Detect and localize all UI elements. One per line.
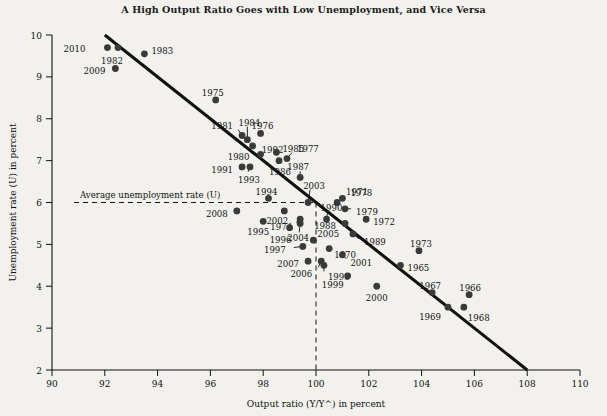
data-point [249, 143, 256, 150]
data-point-label: 1980 [228, 152, 250, 162]
chart-container: A High Output Ratio Goes with Low Unempl… [0, 0, 607, 416]
x-tick-label: 102 [360, 379, 377, 389]
x-tick-label: 104 [413, 379, 430, 389]
data-point [299, 243, 306, 250]
data-point-label: 1991 [211, 165, 233, 175]
data-point-label: 1977 [297, 144, 319, 154]
data-point [297, 220, 304, 227]
x-tick-label: 110 [571, 379, 588, 389]
scatter-plot: 90929496981001021041061081102345678910Ou… [0, 0, 607, 416]
y-tick-label: 5 [36, 240, 42, 250]
data-point-label: 1966 [459, 283, 481, 293]
y-tick-label: 10 [31, 31, 43, 41]
data-point-label: 2003 [303, 181, 325, 191]
data-point [276, 157, 283, 164]
data-point [244, 136, 251, 143]
x-tick-label: 96 [205, 379, 217, 389]
data-point [342, 220, 349, 227]
y-tick-label: 3 [36, 324, 42, 334]
data-point [339, 195, 346, 202]
y-tick-label: 9 [36, 72, 42, 82]
data-point-label: 2008 [206, 209, 228, 219]
data-point [286, 224, 293, 231]
data-point [239, 132, 246, 139]
data-point [247, 164, 254, 171]
data-point [239, 164, 246, 171]
x-tick-label: 92 [99, 379, 110, 389]
data-point-label: 1983 [151, 46, 173, 56]
data-point-label: 1978 [350, 188, 372, 198]
data-point [373, 283, 380, 290]
data-point [321, 262, 328, 269]
data-point-label: 2000 [366, 293, 388, 303]
data-point [257, 151, 264, 158]
x-tick-label: 98 [257, 379, 269, 389]
data-point [326, 245, 333, 252]
data-point-label: 1975 [202, 88, 224, 98]
data-point [460, 304, 467, 311]
data-point-label: 1972 [373, 217, 395, 227]
x-tick-label: 90 [46, 379, 58, 389]
x-tick-label: 100 [307, 379, 324, 389]
y-axis-title: Unemployment rate (U) in percent [8, 123, 18, 282]
data-point-label: 1995 [247, 227, 269, 237]
data-point-label: 1968 [468, 313, 490, 323]
data-point [104, 44, 111, 51]
data-point [115, 44, 122, 51]
y-tick-label: 2 [36, 366, 42, 376]
data-point [281, 207, 288, 214]
data-point [305, 199, 312, 206]
y-tick-label: 8 [36, 114, 42, 124]
y-tick-label: 6 [36, 198, 42, 208]
data-point-label: 1997 [264, 245, 286, 255]
average-unemployment-label: Average unemployment rate (U) [79, 190, 220, 200]
data-point [112, 65, 119, 72]
data-point [233, 207, 240, 214]
data-point-label: 1973 [410, 239, 432, 249]
y-tick-label: 4 [36, 282, 42, 292]
data-point-label: 1994 [256, 187, 278, 197]
data-point-label: 1999 [322, 280, 344, 290]
data-point [260, 218, 267, 225]
data-point-label: 1967 [419, 281, 441, 291]
data-point [284, 155, 291, 162]
data-point-label: 2007 [277, 259, 299, 269]
data-point [363, 216, 370, 223]
data-point [344, 272, 351, 279]
data-point-label: 1981 [211, 121, 233, 131]
data-point [350, 231, 357, 238]
x-axis-title: Output ratio (Y/Y^) in percent [247, 399, 386, 409]
data-point [141, 50, 148, 57]
data-point-label: 1982 [101, 56, 123, 66]
data-point-label: 1993 [238, 175, 260, 185]
data-point-label: 2010 [64, 44, 86, 54]
x-tick-label: 94 [152, 379, 164, 389]
data-point-label: 2001 [350, 258, 372, 268]
data-point-label: 2004 [287, 233, 309, 243]
data-point-label: 1989 [364, 237, 386, 247]
data-point [339, 251, 346, 258]
data-point-label: 1987 [287, 162, 309, 172]
data-point-label: 1992 [262, 145, 284, 155]
data-point-label: 2005 [317, 229, 339, 239]
data-point [273, 149, 280, 156]
data-point-label: 1965 [407, 263, 429, 273]
data-point-label: 1979 [356, 207, 378, 217]
x-tick-label: 108 [519, 379, 536, 389]
data-point [445, 304, 452, 311]
data-point [397, 262, 404, 269]
data-point-label: 2009 [83, 66, 105, 76]
data-point-label: 2006 [290, 269, 312, 279]
data-point-label: 1976 [252, 121, 274, 131]
data-point [305, 258, 312, 265]
data-point [310, 237, 317, 244]
x-tick-label: 106 [466, 379, 483, 389]
data-point [342, 205, 349, 212]
y-tick-label: 7 [36, 156, 42, 166]
data-point-label: 1969 [419, 312, 441, 322]
data-point-label: 1990 [321, 203, 343, 213]
